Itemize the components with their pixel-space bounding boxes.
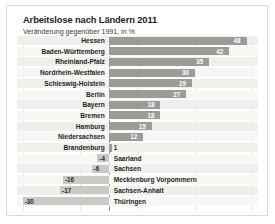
category-label: Sachsen	[114, 164, 141, 173]
category-label: Mecklenburg Vorpommern	[114, 175, 197, 184]
bar-row: Mecklenburg Vorpommern-16	[17, 175, 258, 184]
value-label: 15	[139, 122, 146, 131]
category-label: Brandenburg	[17, 143, 105, 152]
category-label: Hessen	[17, 36, 105, 45]
chart-subtitle: Veränderung gegenüber 1991, in %	[23, 27, 135, 36]
category-label: Saarland	[114, 154, 142, 163]
bar-row: Rheinland-Pfalz35	[17, 57, 258, 66]
value-label: 12	[130, 132, 137, 141]
category-label: Bremen	[17, 111, 105, 120]
category-label: Rheinland-Pfalz	[17, 57, 105, 66]
value-label: 48	[234, 36, 241, 45]
chart-title: Arbeitslose nach Ländern 2011	[23, 15, 157, 25]
bar-row: Saarland-4	[17, 154, 258, 163]
bar-row: Hessen48	[17, 36, 258, 45]
bar-rows: Hessen48Baden-Württemberg42Rheinland-Pfa…	[17, 36, 258, 211]
value-label: 42	[216, 47, 223, 56]
value-label: 1	[114, 143, 118, 152]
value-label: -16	[65, 175, 74, 184]
bar-row: Hamburg15	[17, 122, 258, 131]
value-label: 35	[196, 57, 203, 66]
category-label: Baden-Württemberg	[17, 47, 105, 56]
bar-row: Niedersachsen12	[17, 132, 258, 141]
bar	[109, 133, 143, 141]
bar-row: Berlin27	[17, 90, 258, 99]
bar-row: Nordrhein-Westfalen30	[17, 68, 258, 77]
category-label: Hamburg	[17, 122, 105, 131]
value-label: 29	[179, 79, 186, 88]
bar-row: Sachsen-Anhalt-17	[17, 186, 258, 195]
bar	[109, 58, 209, 66]
plot-area: Hessen48Baden-Württemberg42Rheinland-Pfa…	[17, 36, 258, 211]
value-label: 27	[173, 90, 180, 99]
bar-row: Baden-Württemberg42	[17, 47, 258, 56]
bar	[23, 197, 109, 205]
value-label: 30	[182, 68, 189, 77]
category-label: Niedersachsen	[17, 132, 105, 141]
bar-row: Bayern18	[17, 100, 258, 109]
chart-card: Arbeitslose nach Ländern 2011 Veränderun…	[6, 5, 268, 216]
category-label: Nordrhein-Westfalen	[17, 68, 105, 77]
bar-row: Sachsen-6	[17, 164, 258, 173]
bar-row: Thüringen-30	[17, 197, 258, 206]
value-label: -17	[62, 186, 71, 195]
bar-row: Bremen18	[17, 111, 258, 120]
value-label: -4	[99, 154, 105, 163]
bar-row: Brandenburg1	[17, 143, 258, 152]
bar	[109, 47, 230, 55]
value-label: 18	[147, 100, 154, 109]
value-label: -6	[94, 164, 100, 173]
category-label: Thüringen	[114, 197, 146, 206]
bar-row: Schleswig-Holstein29	[17, 79, 258, 88]
category-label: Bayern	[17, 100, 105, 109]
value-label: -30	[25, 197, 34, 206]
value-label: 18	[147, 111, 154, 120]
category-label: Schleswig-Holstein	[17, 79, 105, 88]
category-label: Berlin	[17, 90, 105, 99]
bar	[109, 144, 112, 152]
bar	[109, 37, 247, 45]
category-label: Sachsen-Anhalt	[114, 186, 164, 195]
